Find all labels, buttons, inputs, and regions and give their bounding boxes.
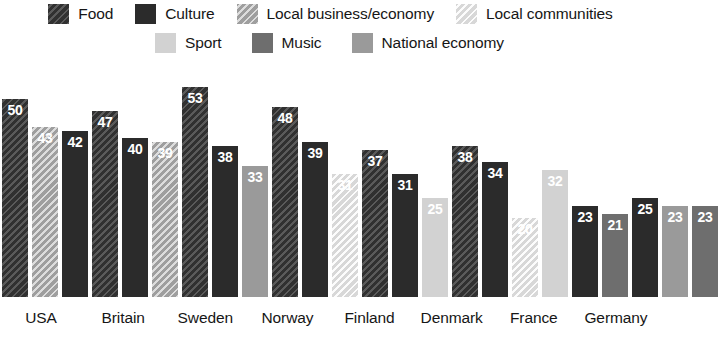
bar[interactable]: 39 [302,142,328,297]
bar-value-label: 31 [392,177,418,193]
legend-label-sport: Sport [185,34,222,52]
bar-value-label: 25 [632,201,658,217]
bar-value-label: 25 [422,201,448,217]
legend-label-culture: Culture [165,5,214,23]
bar[interactable]: 53 [182,87,208,297]
x-axis-label-sweden: Sweden [164,309,246,327]
legend-row-1: FoodCultureLocal business/economyLocal c… [0,0,657,28]
legend-label-localbiz: Local business/economy [267,5,435,23]
bar-group-denmark: 383420 [450,64,540,297]
legend-row-2: SportMusicNational economy [0,28,657,58]
bar-value-label: 23 [572,209,598,225]
bar-value-label: 48 [272,110,298,126]
legend-item-food[interactable]: Food [48,4,113,24]
bar-group-sweden: 533833 [180,64,270,297]
bar-value-label: 21 [602,217,628,233]
bar-value-label: 34 [482,165,508,181]
bar[interactable]: 23 [572,206,598,297]
bar-value-label: 38 [212,149,238,165]
bar[interactable]: 42 [62,131,88,297]
legend-label-music: Music [282,34,322,52]
bar[interactable]: 34 [482,162,508,297]
bar-value-label: 47 [92,114,118,130]
legend-item-sport[interactable]: Sport [155,33,222,53]
bar[interactable]: 39 [152,142,178,297]
bar-group-germany: 252323 [630,64,720,297]
chart-legend: FoodCultureLocal business/economyLocal c… [0,0,657,58]
bar-group-finland: 373125 [360,64,450,297]
bar-value-label: 37 [362,153,388,169]
bar[interactable]: 32 [542,170,568,297]
bar[interactable]: 47 [92,111,118,297]
bar-value-label: 31 [332,177,358,193]
bar-groups: 5043424740395338334839313731253834203223… [0,64,657,297]
bar-value-label: 53 [182,90,208,106]
local-communities-swatch [456,4,477,24]
legend-item-music[interactable]: Music [252,33,322,53]
legend-item-localbiz[interactable]: Local business/economy [237,4,435,24]
local-business-swatch [237,4,258,24]
bar-value-label: 23 [692,209,718,225]
bar[interactable]: 48 [272,107,298,297]
bar[interactable]: 37 [362,150,388,297]
bar[interactable]: 25 [632,198,658,297]
bar[interactable]: 23 [692,206,718,297]
bar[interactable]: 21 [602,214,628,297]
bar-value-label: 32 [542,173,568,189]
bar[interactable]: 43 [32,127,58,297]
legend-label-localcomm: Local communities [486,5,613,23]
bar[interactable]: 20 [512,218,538,297]
x-axis-label-germany: Germany [575,309,657,327]
bar-value-label: 43 [32,130,58,146]
chart-plot-area: 5043424740395338334839313731253834203223… [0,64,657,339]
legend-item-nationalecon[interactable]: National economy [352,33,504,53]
legend-item-localcomm[interactable]: Local communities [456,4,613,24]
bar-value-label: 38 [452,149,478,165]
bar-group-france: 322321 [540,64,630,297]
bar[interactable]: 31 [332,174,358,297]
bar[interactable]: 25 [422,198,448,297]
bar-value-label: 39 [302,145,328,161]
bar[interactable]: 33 [242,166,268,297]
legend-item-culture[interactable]: Culture [135,4,214,24]
bar-value-label: 50 [2,102,28,118]
bar[interactable]: 31 [392,174,418,297]
bar-value-label: 20 [512,221,538,237]
x-axis-label-denmark: Denmark [411,309,493,327]
bar-value-label: 33 [242,169,268,185]
bar-value-label: 40 [122,141,148,157]
bar[interactable]: 38 [452,146,478,297]
bar-value-label: 23 [662,209,688,225]
bar-value-label: 42 [62,134,88,150]
legend-label-food: Food [78,5,113,23]
sport-swatch [155,33,176,53]
bar[interactable]: 40 [122,138,148,297]
bar[interactable]: 38 [212,146,238,297]
legend-label-nationalecon: National economy [382,34,504,52]
bar-group-norway: 483931 [270,64,360,297]
bar-group-britain: 474039 [90,64,180,297]
bar[interactable]: 50 [2,99,28,297]
food-swatch [48,4,69,24]
national-economy-swatch [352,33,373,53]
x-axis-label-britain: Britain [82,309,164,327]
x-axis-label-france: France [493,309,575,327]
x-axis-label-finland: Finland [329,309,411,327]
x-axis-labels: USABritainSwedenNorwayFinlandDenmarkFran… [0,297,657,339]
bar-value-label: 39 [152,145,178,161]
bar[interactable]: 23 [662,206,688,297]
music-swatch [252,33,273,53]
x-axis-label-norway: Norway [246,309,328,327]
bar-group-usa: 504342 [0,64,90,297]
culture-swatch [135,4,156,24]
x-axis-label-usa: USA [0,309,82,327]
